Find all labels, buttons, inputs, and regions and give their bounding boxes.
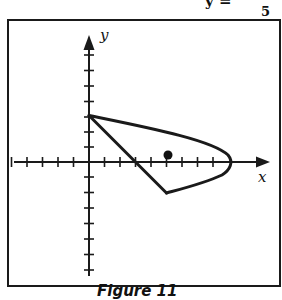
centroid-point — [164, 151, 173, 160]
x-axis-label: x — [258, 168, 267, 186]
figure-caption: Figure 11 — [97, 282, 177, 300]
y-axis-label: y — [99, 26, 109, 44]
x-axis-arrow-icon — [256, 157, 270, 168]
line-segment — [89, 116, 167, 194]
parabola-curve — [89, 116, 231, 194]
y-axis-arrow-icon — [84, 35, 95, 50]
